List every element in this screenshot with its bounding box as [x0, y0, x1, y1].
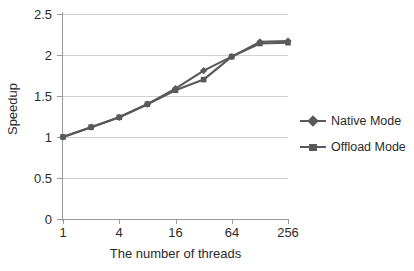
- legend-item-offload-mode[interactable]: Offload Mode: [300, 134, 410, 160]
- data-point-marker: [88, 124, 94, 130]
- data-point-marker: [201, 77, 207, 83]
- speedup-line-chart: 2.5 2 1.5 1 0.5 0 1 4 16 64 256 The numb…: [0, 0, 414, 271]
- legend-item-native-mode[interactable]: Native Mode: [300, 108, 410, 134]
- legend: Native Mode Offload Mode: [300, 108, 410, 160]
- square-marker-icon: [300, 140, 326, 154]
- data-point-marker: [257, 41, 263, 47]
- data-point-marker: [173, 87, 179, 93]
- data-point-marker: [145, 101, 151, 107]
- data-point-marker: [60, 134, 66, 140]
- legend-label: Native Mode: [326, 114, 401, 128]
- data-point-marker: [116, 115, 122, 121]
- data-point-marker: [229, 54, 235, 60]
- series-group: [59, 37, 291, 140]
- data-point-marker: [285, 40, 291, 46]
- legend-label: Offload Mode: [326, 140, 406, 154]
- diamond-marker-icon: [300, 114, 326, 128]
